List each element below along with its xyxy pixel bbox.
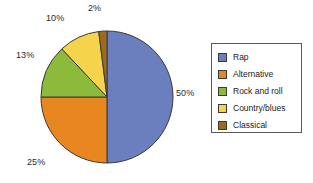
- chart-legend: RapAlternativeRock and rollCountry/blues…: [211, 43, 302, 133]
- data-label-rap: 50%: [176, 88, 194, 98]
- legend-swatch-icon: [218, 70, 227, 79]
- legend-swatch-icon: [218, 87, 227, 96]
- legend-swatch-icon: [218, 121, 227, 130]
- legend-swatch-icon: [218, 104, 227, 113]
- legend-item-rap[interactable]: Rap: [218, 49, 301, 65]
- data-label-classical: 2%: [88, 3, 101, 13]
- pie-slice-alternative[interactable]: [41, 97, 107, 163]
- pie-chart-figure: 50% 25% 13% 10% 2% RapAlternativeRock an…: [0, 0, 313, 183]
- legend-label: Rock and roll: [233, 87, 283, 96]
- legend-label: Rap: [233, 53, 249, 62]
- legend-label: Alternative: [233, 70, 273, 79]
- pie-chart-graphic: [40, 30, 174, 164]
- legend-label: Country/blues: [233, 104, 285, 113]
- legend-item-country-blues[interactable]: Country/blues: [218, 100, 301, 116]
- legend-item-rock-and-roll[interactable]: Rock and roll: [218, 83, 301, 99]
- pie-svg: [40, 30, 174, 164]
- data-label-rock-and-roll: 13%: [16, 50, 34, 60]
- legend-item-classical[interactable]: Classical: [218, 117, 301, 133]
- pie-slice-rap[interactable]: [107, 31, 173, 163]
- legend-item-alternative[interactable]: Alternative: [218, 66, 301, 82]
- data-label-country-blues: 10%: [46, 13, 64, 23]
- data-label-alternative: 25%: [27, 157, 45, 167]
- legend-swatch-icon: [218, 53, 227, 62]
- legend-label: Classical: [233, 121, 267, 130]
- pie-slice-group: [41, 31, 173, 163]
